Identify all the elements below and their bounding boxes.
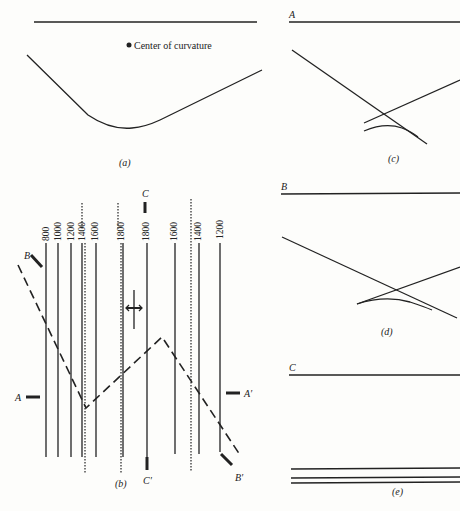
center-of-curvature-dot <box>127 43 132 48</box>
parallel-line-1 <box>291 468 460 469</box>
section-label-c: C <box>289 362 296 373</box>
limb-line-2 <box>364 80 460 123</box>
curved-hinge <box>364 126 418 137</box>
curved-profile <box>27 55 262 128</box>
section-label-a: A <box>288 9 296 20</box>
contour-label-1400-right: 1400 <box>193 222 203 241</box>
panel-a <box>27 22 262 128</box>
contour-label-1800-left: 1800 <box>116 222 126 241</box>
contour-label-1000: 1000 <box>53 222 63 241</box>
map-label-b-prime: B′ <box>235 472 244 483</box>
contour-label-1200-right: 1200 <box>215 220 225 239</box>
panel-e <box>289 375 460 483</box>
panel-b <box>18 199 240 473</box>
section-b-reference-line <box>281 193 460 194</box>
contour-label-1600: 1600 <box>90 222 100 241</box>
caption-b: (b) <box>115 478 127 490</box>
contour-label-1600-right: 1600 <box>169 222 179 241</box>
parallel-line-2 <box>291 477 460 478</box>
contour-label-1800-right: 1800 <box>141 222 151 241</box>
caption-e: (e) <box>392 486 404 498</box>
marker-b <box>31 255 42 267</box>
caption-c: (c) <box>388 153 400 165</box>
section-label-b: B <box>281 181 287 192</box>
map-label-a: A <box>14 392 22 403</box>
figure-canvas: Center of curvature (a) (b) (c) (d) (e) … <box>0 0 460 511</box>
map-label-c: C <box>142 188 149 199</box>
contour-label-1400: 1400 <box>77 222 87 241</box>
panel-d <box>281 193 460 318</box>
limb-line-2 <box>357 267 460 304</box>
panel-c <box>289 22 460 144</box>
section-trace-dashed <box>18 265 240 455</box>
caption-d: (d) <box>381 326 393 338</box>
parallel-line-3 <box>291 482 460 483</box>
map-label-b: B <box>24 250 30 261</box>
center-of-curvature-label: Center of curvature <box>134 40 212 51</box>
caption-a: (a) <box>119 157 131 169</box>
contour-label-800: 800 <box>41 227 51 242</box>
map-label-c-prime: C′ <box>143 475 153 486</box>
contour-label-1200: 1200 <box>66 222 76 241</box>
marker-b-prime <box>221 454 232 465</box>
map-label-a-prime: A′ <box>243 388 253 399</box>
